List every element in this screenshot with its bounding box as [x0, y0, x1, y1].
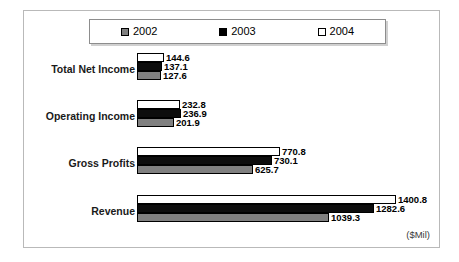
bar-value-2002: 1039.3 [329, 212, 360, 223]
category-label-gross-profits: Gross Profits [0, 158, 135, 169]
bar-value-2003: 1282.6 [374, 203, 405, 214]
category-label-operating-income: Operating Income [0, 111, 135, 122]
plot-area: Total Net Income 144.6 137.1 127.6 [24, 11, 441, 249]
chart-canvas: 2002 2003 2004 Total Net Income 144.6 [0, 0, 459, 262]
bar-2003[interactable] [137, 62, 162, 71]
bar-2002[interactable] [137, 71, 161, 80]
bar-2004[interactable] [137, 53, 164, 62]
bar-2003[interactable] [137, 156, 272, 165]
bar-2002[interactable] [137, 213, 329, 222]
bar-2004[interactable] [137, 147, 280, 156]
bar-2002[interactable] [137, 118, 174, 127]
category-label-total-net-income: Total Net Income [0, 64, 135, 75]
bar-value-2002: 625.7 [253, 164, 279, 175]
units-note: ($Mil) [406, 229, 430, 240]
bar-2004[interactable] [137, 100, 180, 109]
bar-value-2002: 127.6 [161, 70, 187, 81]
bar-2002[interactable] [137, 165, 253, 174]
bar-value-2002: 201.9 [174, 117, 200, 128]
bar-2004[interactable] [137, 195, 396, 204]
category-label-revenue: Revenue [0, 206, 135, 217]
chart-frame: 2002 2003 2004 Total Net Income 144.6 [23, 10, 440, 248]
